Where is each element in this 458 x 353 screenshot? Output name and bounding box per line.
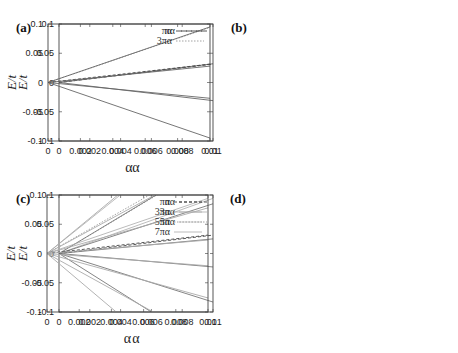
x-tick-label: 0	[45, 146, 50, 156]
y-tick-label: 0.1	[30, 19, 43, 29]
x-tick-label: 0	[56, 146, 61, 156]
x-tick-label: 0.01	[199, 317, 217, 327]
y-tick-label: -0.1	[27, 136, 43, 146]
x-tick-label: 0.01	[201, 146, 219, 156]
x-tick-label: 0.002	[69, 146, 92, 156]
panel-label: (b)	[231, 20, 247, 35]
y-tick-label: 0.1	[29, 190, 42, 200]
x-axis-label: α	[132, 160, 140, 175]
x-axis-label: α	[124, 331, 132, 346]
y-tick-label: -0.05	[21, 278, 42, 288]
y-tick-label: 0.05	[25, 48, 43, 58]
x-axis-label: α	[125, 160, 133, 175]
reference-line	[47, 162, 208, 254]
y-tick-label: 0	[38, 78, 43, 88]
y-axis-label: E/t	[3, 246, 18, 263]
reference-line	[47, 125, 208, 254]
reference-line	[47, 198, 208, 253]
series-line	[59, 83, 213, 101]
panel-label: (c)	[16, 191, 30, 206]
y-tick-label: -0.1	[26, 307, 42, 317]
series-line	[47, 254, 153, 313]
series-line	[47, 195, 155, 254]
x-tick-label: 0.004	[100, 317, 123, 327]
x-tick-label: 0	[56, 317, 61, 327]
x-axis-label: α	[132, 331, 140, 346]
x-tick-label: 0.002	[68, 317, 91, 327]
y-axis-label: E/t	[4, 75, 19, 92]
figure: (a)0.10.050-0.05-0.100.0020.0040.0060.00…	[0, 0, 458, 353]
y-tick-label: 0	[37, 249, 42, 259]
panel-label: (a)	[16, 20, 31, 35]
series-line	[47, 254, 208, 266]
x-tick-label: 0.008	[165, 317, 188, 327]
x-tick-label: 0.008	[166, 146, 189, 156]
legend-label: 3πα	[157, 35, 173, 46]
x-tick-label: 0	[44, 317, 49, 327]
x-tick-label: 0.006	[134, 146, 157, 156]
x-tick-label: 0.004	[102, 146, 125, 156]
y-tick-label: -0.05	[22, 107, 43, 117]
panel-label: (d)	[230, 191, 246, 206]
plot-frame	[48, 24, 210, 141]
reference-line	[47, 235, 208, 253]
legend-label: 7πα	[155, 226, 171, 237]
series-line	[47, 254, 208, 298]
legend: πα3πα	[157, 25, 204, 46]
x-tick-label: 0.006	[132, 317, 155, 327]
y-tick-label: 0.05	[24, 219, 42, 229]
plot-frame	[59, 24, 213, 141]
